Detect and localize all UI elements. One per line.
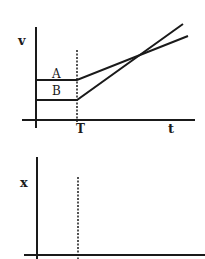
- bottom-y-axis-label: x: [20, 176, 28, 189]
- bottom-graph: [24, 157, 205, 259]
- top-x-axis-label: t: [168, 122, 174, 135]
- top-graph: [22, 24, 195, 128]
- top-y-axis-label: v: [18, 34, 26, 47]
- diagram-canvas: [0, 0, 205, 259]
- line-b-label: B: [52, 85, 61, 97]
- time-marker-label: T: [76, 123, 85, 135]
- line-a-label: A: [52, 68, 61, 80]
